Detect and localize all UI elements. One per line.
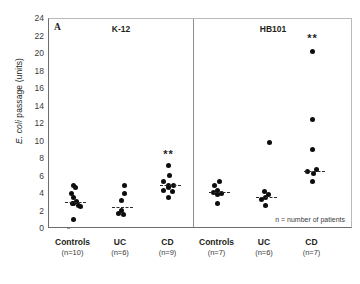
x-group-count: (n=7) <box>303 248 321 257</box>
figure-panel-a: E. coli passage (units) 0246810121416182… <box>0 0 360 284</box>
y-tick-8: 8 <box>39 154 44 162</box>
panel-title-k12: K-12 <box>49 24 193 34</box>
panel-title-hb101: HB101 <box>193 24 353 34</box>
x-group-name: CD <box>303 237 321 247</box>
mean-line <box>209 192 230 193</box>
data-point <box>122 183 127 188</box>
data-point <box>311 171 316 176</box>
y-tick-12: 12 <box>35 119 44 127</box>
y-tick-2: 2 <box>39 207 44 215</box>
y-tick-22: 22 <box>35 32 44 40</box>
x-group-count: (n=7) <box>199 248 234 257</box>
y-axis-tick-labels: 024681012141618202224 <box>22 0 44 284</box>
mean-line <box>112 207 133 208</box>
y-tick-20: 20 <box>35 49 44 57</box>
data-point <box>73 185 78 190</box>
data-point <box>76 203 81 208</box>
data-point <box>212 183 217 188</box>
x-group-name: UC <box>255 237 273 247</box>
x-group-hb101-controls: Controls(n=7) <box>199 237 234 257</box>
x-group-count: (n=9) <box>159 248 177 257</box>
data-point <box>310 117 315 122</box>
y-tick-0: 0 <box>39 224 44 232</box>
x-group-count: (n=10) <box>55 248 90 257</box>
mean-line <box>65 202 86 203</box>
y-tick-24: 24 <box>35 14 44 22</box>
y-tick-10: 10 <box>35 137 44 145</box>
y-tick-16: 16 <box>35 84 44 92</box>
y-tick-mark-0 <box>67 228 70 229</box>
data-point <box>116 211 121 216</box>
data-point <box>215 201 220 206</box>
mean-line <box>160 185 181 186</box>
data-point <box>119 198 124 203</box>
panel-divider <box>193 19 194 227</box>
data-point <box>310 179 315 184</box>
data-point <box>217 179 222 184</box>
significance-marker: ** <box>163 148 174 160</box>
y-tick-4: 4 <box>39 189 44 197</box>
x-group-count: (n=6) <box>255 248 273 257</box>
y-tick-6: 6 <box>39 172 44 180</box>
data-point <box>161 188 166 193</box>
x-group-name: CD <box>159 237 177 247</box>
y-tick-18: 18 <box>35 67 44 75</box>
data-point <box>170 189 175 194</box>
x-group-k-12-uc: UC(n=6) <box>111 237 129 257</box>
figure-note: n = number of patients <box>275 216 345 223</box>
data-point <box>167 173 172 178</box>
x-group-k-12-controls: Controls(n=10) <box>55 237 90 257</box>
data-point <box>267 140 272 145</box>
x-group-k-12-cd: CD(n=9) <box>159 237 177 257</box>
data-point <box>215 192 220 197</box>
data-point <box>166 163 171 168</box>
x-group-count: (n=6) <box>111 248 129 257</box>
data-point <box>121 212 126 217</box>
x-group-name: Controls <box>55 237 90 247</box>
data-point <box>71 217 76 222</box>
mean-line <box>304 171 325 172</box>
significance-marker: ** <box>307 32 318 44</box>
x-group-hb101-uc: UC(n=6) <box>255 237 273 257</box>
x-group-name: UC <box>111 237 129 247</box>
data-point <box>166 195 171 200</box>
data-point <box>310 49 315 54</box>
mean-line <box>256 197 277 198</box>
x-group-name: Controls <box>199 237 234 247</box>
data-point <box>122 191 127 196</box>
plot-area: A K-12 HB101 **** n = number of patients <box>48 18 352 228</box>
data-point <box>263 203 268 208</box>
data-point <box>310 147 315 152</box>
x-group-hb101-cd: CD(n=7) <box>303 237 321 257</box>
y-tick-14: 14 <box>35 102 44 110</box>
